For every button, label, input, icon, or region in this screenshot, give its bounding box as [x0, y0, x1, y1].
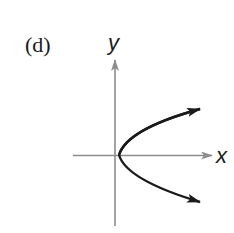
graph-diagram: (d) y x	[0, 0, 234, 233]
panel-label: (d)	[25, 32, 51, 57]
parabola-upper-branch	[119, 109, 200, 155]
parabola-lower-branch	[119, 155, 200, 202]
x-axis-label: x	[215, 143, 228, 168]
parabola-upper-arrow	[119, 109, 200, 155]
y-axis-label: y	[106, 30, 121, 55]
